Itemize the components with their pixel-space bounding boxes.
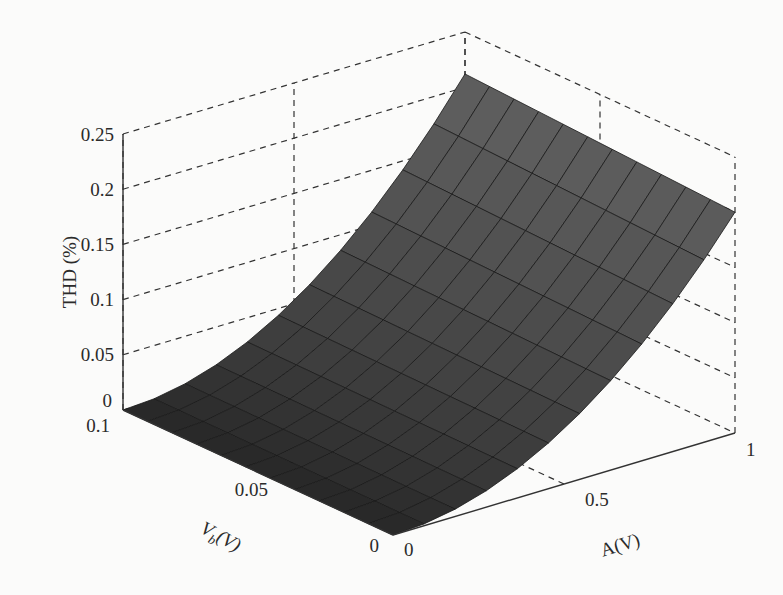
z-tick-label: 0.1 — [90, 289, 114, 310]
z-tick-label: 0.05 — [81, 344, 114, 365]
thd-surface-plot: 0.25 0.2 0.15 0.1 0.05 0 0.1 0.05 0 0 0.… — [0, 0, 783, 595]
vb-tick-label: 0.1 — [86, 415, 110, 436]
z-tick-label: 0 — [103, 390, 113, 411]
vb-axis-title-rest: (V) — [213, 526, 245, 557]
thd-surface — [123, 74, 735, 535]
a-tick-label: 0 — [404, 539, 414, 560]
z-tick-label: 0.2 — [90, 179, 114, 200]
a-tick-label: 0.5 — [585, 489, 609, 510]
a-axis-title: A(V) — [598, 529, 643, 562]
z-axis-title: THD (%) — [59, 236, 81, 308]
z-tick-label: 0.25 — [81, 124, 114, 145]
a-tick-label: 1 — [746, 439, 756, 460]
vb-tick-label: 0.05 — [235, 479, 268, 500]
vb-axis-title: Vb(V) — [196, 517, 245, 559]
vb-tick-label: 0 — [370, 535, 380, 556]
z-tick-label: 0.15 — [81, 234, 114, 255]
